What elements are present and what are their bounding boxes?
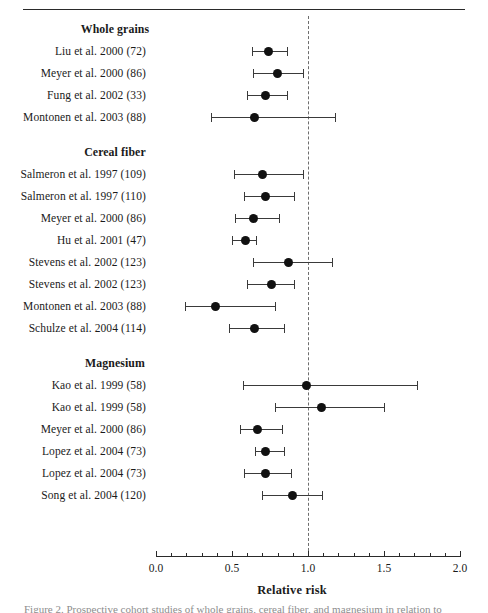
- x-axis-tick-label: 1.0: [301, 562, 315, 574]
- ci-lower-cap: [262, 491, 263, 500]
- x-axis-minor-tick: [369, 553, 370, 558]
- point-estimate-marker: [261, 192, 270, 201]
- ci-lower-cap: [235, 214, 236, 223]
- ci-upper-cap: [294, 280, 295, 289]
- ci-lower-cap: [229, 324, 230, 333]
- ci-whisker-line: [234, 174, 304, 175]
- confidence-interval: [0, 374, 488, 396]
- ci-lower-cap: [252, 47, 253, 56]
- x-axis-tick-label: 0.0: [149, 562, 163, 574]
- point-estimate-marker: [250, 324, 259, 333]
- ci-lower-cap: [275, 403, 276, 412]
- ci-lower-cap: [234, 170, 235, 179]
- group-label: Magnesium: [0, 352, 230, 374]
- x-axis-major-tick: [232, 551, 233, 557]
- ci-upper-cap: [417, 381, 418, 390]
- study-row: Montonen et al. 2003 (88): [0, 295, 488, 317]
- ci-whisker-line: [185, 306, 275, 307]
- confidence-interval: [0, 418, 488, 440]
- confidence-interval: [0, 40, 488, 62]
- ci-lower-cap: [240, 425, 241, 434]
- ci-lower-cap: [247, 280, 248, 289]
- confidence-interval: [0, 251, 488, 273]
- point-estimate-marker: [288, 491, 297, 500]
- confidence-interval: [0, 484, 488, 506]
- confidence-interval: [0, 273, 488, 295]
- study-row: Meyer et al. 2000 (86): [0, 207, 488, 229]
- x-axis-minor-tick: [430, 553, 431, 558]
- x-axis-minor-tick: [171, 553, 172, 558]
- point-estimate-marker: [284, 258, 293, 267]
- confidence-interval: [0, 84, 488, 106]
- point-estimate-marker: [258, 170, 267, 179]
- study-row: Salmeron et al. 1997 (110): [0, 185, 488, 207]
- ci-upper-cap: [332, 258, 333, 267]
- group-header-row: Whole grains: [0, 18, 488, 40]
- point-estimate-marker: [273, 69, 282, 78]
- ci-upper-cap: [335, 113, 336, 122]
- study-row: Liu et al. 2000 (72): [0, 40, 488, 62]
- point-estimate-marker: [261, 91, 270, 100]
- study-row: Meyer et al. 2000 (86): [0, 418, 488, 440]
- ci-upper-cap: [303, 170, 304, 179]
- x-axis-minor-tick: [247, 553, 248, 558]
- x-axis-title-text: Relative risk: [161, 583, 327, 598]
- ci-upper-cap: [284, 447, 285, 456]
- point-estimate-marker: [302, 381, 311, 390]
- x-axis-minor-tick: [445, 553, 446, 558]
- confidence-interval: [0, 106, 488, 128]
- forest-plot-rows: Whole grainsLiu et al. 2000 (72)Meyer et…: [0, 0, 488, 545]
- point-estimate-marker: [253, 425, 262, 434]
- ci-lower-cap: [253, 69, 254, 78]
- ci-lower-cap: [232, 236, 233, 245]
- confidence-interval: [0, 295, 488, 317]
- ci-upper-cap: [303, 69, 304, 78]
- ci-upper-cap: [287, 47, 288, 56]
- point-estimate-marker: [261, 447, 270, 456]
- group-label: Cereal fiber: [0, 141, 230, 163]
- confidence-interval: [0, 317, 488, 339]
- x-axis-minor-tick: [217, 553, 218, 558]
- x-axis-minor-tick: [399, 553, 400, 558]
- study-row: Montonen et al. 2003 (88): [0, 106, 488, 128]
- ci-upper-cap: [279, 214, 280, 223]
- ci-lower-cap: [244, 469, 245, 478]
- confidence-interval: [0, 163, 488, 185]
- ci-upper-cap: [282, 425, 283, 434]
- study-row: Meyer et al. 2000 (86): [0, 62, 488, 84]
- x-axis: 0.00.51.01.52.0: [0, 556, 488, 576]
- ci-upper-cap: [256, 236, 257, 245]
- study-row: Song et al. 2004 (120): [0, 484, 488, 506]
- point-estimate-marker: [249, 214, 258, 223]
- confidence-interval: [0, 207, 488, 229]
- study-row: Fung et al. 2002 (33): [0, 84, 488, 106]
- study-row: Schulze et al. 2004 (114): [0, 317, 488, 339]
- confidence-interval: [0, 185, 488, 207]
- x-axis-minor-tick: [262, 553, 263, 558]
- confidence-interval: [0, 396, 488, 418]
- point-estimate-marker: [250, 113, 259, 122]
- x-axis-minor-tick: [414, 553, 415, 558]
- x-axis-minor-tick: [278, 553, 279, 558]
- figure-caption: Figure 2. Prospective cohort studies of …: [24, 603, 474, 613]
- study-row: Stevens et al. 2002 (123): [0, 251, 488, 273]
- ci-upper-cap: [284, 324, 285, 333]
- study-row: Stevens et al. 2002 (123): [0, 273, 488, 295]
- ci-whisker-line: [211, 117, 336, 118]
- point-estimate-marker: [241, 236, 250, 245]
- ci-lower-cap: [247, 91, 248, 100]
- ci-lower-cap: [244, 192, 245, 201]
- point-estimate-marker: [261, 469, 270, 478]
- x-axis-minor-tick: [186, 553, 187, 558]
- point-estimate-marker: [267, 280, 276, 289]
- ci-whisker-line: [275, 407, 384, 408]
- x-axis-minor-tick: [202, 553, 203, 558]
- x-axis-minor-tick: [323, 553, 324, 558]
- confidence-interval: [0, 440, 488, 462]
- point-estimate-marker: [264, 47, 273, 56]
- ci-lower-cap: [185, 302, 186, 311]
- point-estimate-marker: [211, 302, 220, 311]
- ci-upper-cap: [384, 403, 385, 412]
- x-axis-tick-label: 1.5: [377, 562, 391, 574]
- x-axis-major-tick: [460, 551, 461, 557]
